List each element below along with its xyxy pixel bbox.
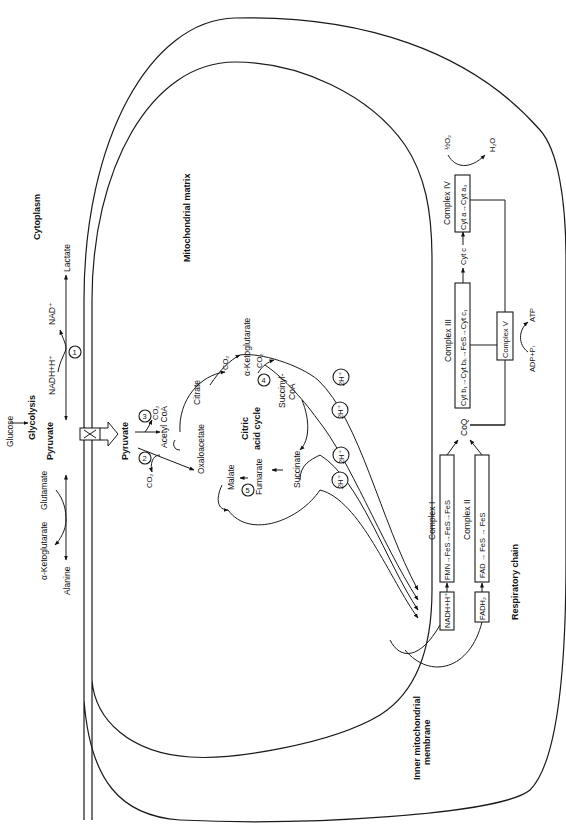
proton-label-2: 2H⁺ bbox=[336, 405, 345, 419]
co2-label-c: CO₂ bbox=[221, 356, 230, 370]
adp-pi-label: ADP+Pᵢ bbox=[528, 346, 537, 372]
proton-label-3: 2H⁺ bbox=[337, 450, 346, 464]
acetyl-coa-label: Acetyl CoA bbox=[159, 406, 169, 448]
citric-acid-cycle-label-line1: Citric bbox=[240, 417, 250, 440]
cytoplasm-pyruvate-label: Pyruvate bbox=[45, 422, 55, 460]
alpha-ketoglutarate-cytoplasm-label: α-Ketoglutarate bbox=[39, 521, 49, 580]
mitochondrial-metabolism-diagram: Cytoplasm Mitochondrial matrix Inner mit… bbox=[0, 0, 566, 826]
half-o2-label: ½O₂ bbox=[443, 135, 452, 150]
lactate-label: Lactate bbox=[62, 244, 72, 272]
nadh-box-label: NADH+H⁺ bbox=[443, 593, 452, 628]
complex-i-title: Complex I bbox=[427, 502, 437, 540]
succinate-label: Succinate bbox=[292, 450, 302, 488]
cytoplasm-label: Cytoplasm bbox=[32, 194, 42, 240]
atp-label: ATP bbox=[528, 308, 537, 322]
proton-label-1: 2H⁺ bbox=[337, 372, 346, 386]
step-2-marker: 2 bbox=[143, 454, 147, 463]
cytoplasm-pathway: Glucose Glycolysis Pyruvate Lactate 1 NA… bbox=[5, 244, 81, 595]
glycolysis-label: Glycolysis bbox=[27, 395, 37, 440]
step-4-marker: 4 bbox=[262, 376, 266, 385]
nad-label: NAD⁺ bbox=[47, 302, 57, 325]
cyt-c-label: Cyt c bbox=[459, 248, 468, 265]
malate-label: Malate bbox=[226, 464, 236, 490]
step-3-marker: 3 bbox=[143, 412, 147, 421]
coq-label: CoQ bbox=[459, 418, 469, 436]
respiratory-chain-label: Respiratory chain bbox=[510, 544, 520, 620]
pyruvate-transporter bbox=[80, 422, 118, 446]
fumarate-label: Fumarate bbox=[254, 458, 264, 495]
complex-iv-title: Complex IV bbox=[442, 181, 452, 225]
proton-label-4: 2H⁺ bbox=[336, 475, 345, 489]
citric-acid-cycle-label-line2: acid cycle bbox=[252, 407, 262, 450]
complex-ii-title: Complex II bbox=[462, 499, 472, 540]
complex-ii-content: FAD → FeS → FeS bbox=[478, 513, 487, 578]
glucose-label: Glucose bbox=[5, 416, 15, 447]
glutamate-label: Glutamate bbox=[39, 471, 49, 510]
nadh-cytoplasm-label: NADH+H⁺ bbox=[47, 355, 57, 395]
citric-acid-cycle: Pyruvate 3 CO₂ Acetyl CoA 2 CO₂ Oxaloace… bbox=[120, 317, 308, 510]
h2o-label: H₂O bbox=[488, 138, 497, 152]
inner-membrane-label-line2: membrane bbox=[422, 719, 432, 765]
co2-label-2: CO₂ bbox=[145, 474, 154, 488]
complex-iii-content: Cyt b₁→Cyt bₖ→FeS→Cyt c₁ bbox=[459, 309, 468, 406]
alanine-label: Alanine bbox=[62, 566, 72, 595]
inner-membrane-label-line1: Inner mitochondrial bbox=[412, 696, 422, 780]
mitochondrial-matrix-label: Mitochondrial matrix bbox=[182, 173, 192, 262]
citrate-label: Citrate bbox=[192, 380, 202, 405]
alpha-ketoglutarate-matrix-label: α-Ketoglutarate bbox=[242, 317, 252, 376]
step-5-marker: 5 bbox=[246, 486, 250, 495]
complex-iv-content: Cyt a→Cyt a₃ bbox=[459, 184, 468, 230]
complex-i-content: FMN→FeS→FeS→FeS bbox=[443, 500, 452, 580]
step-1-marker: 1 bbox=[73, 348, 77, 357]
fadh2-box-label: FADH₂ bbox=[478, 597, 487, 620]
complex-iii-title: Complex III bbox=[443, 319, 453, 362]
complex-v-label: Complex V bbox=[501, 321, 510, 358]
oxaloacetate-label: Oxaloacetate bbox=[196, 424, 206, 474]
matrix-pyruvate-label: Pyruvate bbox=[120, 422, 130, 460]
inner-mitochondrial-membrane bbox=[92, 62, 432, 820]
